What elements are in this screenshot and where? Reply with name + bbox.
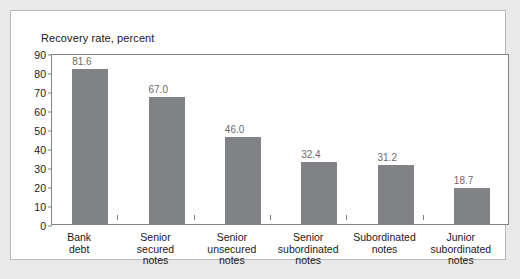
bar-series: 81.667.046.032.431.218.7 [52,55,508,224]
x-tick-mark [346,215,347,220]
bar[interactable]: 18.7 [454,188,490,224]
x-tick-mark [270,215,271,220]
bar-group[interactable]: 31.2 [378,53,414,224]
y-tick-mark [48,112,52,113]
x-axis-label-line: notes [416,255,506,267]
x-tick-mark [117,215,118,220]
chart-panel: Recovery rate, percent 81.667.046.032.43… [10,10,506,260]
chart-screenshot: Recovery rate, percent 81.667.046.032.43… [0,0,520,279]
y-tick-mark [48,188,52,189]
x-tick-mark [423,215,424,220]
y-tick-mark [48,150,52,151]
y-tick-mark [48,226,52,227]
bar[interactable]: 46.0 [225,137,261,224]
y-tick-mark [48,55,52,56]
bar[interactable]: 67.0 [149,97,185,224]
bar-value-label: 18.7 [454,175,473,186]
bar-group[interactable]: 67.0 [149,53,185,224]
bar-value-label: 32.4 [301,149,320,160]
x-axis-label-line: notes [263,255,353,267]
y-tick-mark [48,74,52,75]
y-tick-mark [48,207,52,208]
y-tick-mark [48,169,52,170]
bar-value-label: 81.6 [72,56,91,67]
y-tick-mark [48,93,52,94]
x-axis-label-line: Junior [416,232,506,244]
bar[interactable]: 32.4 [301,162,337,224]
chart-title: Recovery rate, percent [41,32,154,44]
bar[interactable]: 81.6 [72,69,108,224]
bar-value-label: 67.0 [149,84,168,95]
x-axis-label: Juniorsubordinatednotes [416,232,506,267]
bar-group[interactable]: 81.6 [72,53,108,224]
bar-group[interactable]: 46.0 [225,53,261,224]
bar-group[interactable]: 18.7 [454,53,490,224]
bar[interactable]: 31.2 [378,165,414,224]
bar-value-label: 46.0 [225,124,244,135]
bar-value-label: 31.2 [378,152,397,163]
x-tick-mark [194,215,195,220]
plot-area: 81.667.046.032.431.218.7 908070605040302… [51,54,509,225]
bar-group[interactable]: 32.4 [301,53,337,224]
y-tick-mark [48,131,52,132]
